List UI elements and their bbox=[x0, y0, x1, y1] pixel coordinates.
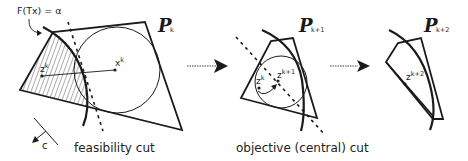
inscribed-circle bbox=[255, 56, 307, 108]
arrowhead-icon bbox=[37, 30, 42, 36]
point-zk bbox=[257, 86, 260, 89]
panel-k: F(Tx) = α zk xk P k c feasibility cut bbox=[17, 5, 182, 155]
panel-k1: zk zk+1 P k+1 objective (central) cut bbox=[236, 15, 369, 155]
panel-k2: zk+2 P k+2 bbox=[386, 15, 449, 130]
point-zk bbox=[40, 74, 43, 77]
svg-text:zk+1: zk+1 bbox=[277, 68, 295, 80]
transition-arrow-2 bbox=[330, 60, 370, 72]
curve-label: F(Tx) = α bbox=[17, 5, 62, 16]
objective-cut-line bbox=[236, 37, 325, 135]
direction-label: c bbox=[42, 140, 48, 151]
hatched-region bbox=[20, 32, 87, 106]
title-pk-subscript: k bbox=[170, 26, 174, 34]
title-pk1-subscript: k+1 bbox=[311, 26, 324, 34]
svg-text:zk+2: zk+2 bbox=[406, 70, 424, 82]
arrowhead-icon bbox=[357, 60, 370, 72]
cutting-plane-diagram: F(Tx) = α zk xk P k c feasibility cut bbox=[0, 0, 468, 161]
title-pk2-subscript: k+2 bbox=[436, 26, 449, 34]
arrowhead-icon bbox=[214, 59, 228, 73]
arrowhead-icon bbox=[271, 84, 277, 90]
svg-text:xk: xk bbox=[115, 56, 124, 68]
caption-objective-cut: objective (central) cut bbox=[236, 141, 369, 155]
point-zk2 bbox=[403, 82, 406, 85]
caption-feasibility-cut: feasibility cut bbox=[74, 141, 155, 155]
point-xk bbox=[113, 68, 116, 71]
transition-arrow-1 bbox=[187, 59, 228, 73]
svg-text:zk: zk bbox=[256, 74, 265, 86]
